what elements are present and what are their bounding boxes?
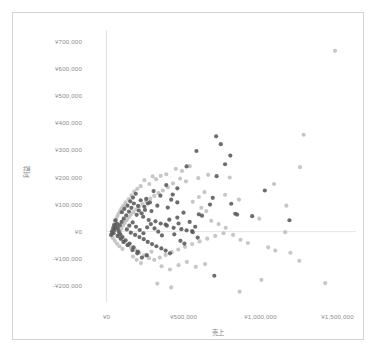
- y-axis-tick-label: -¥200,000: [20, 282, 82, 289]
- y-axis-tick-label: ¥100,000: [20, 201, 82, 208]
- x-axis-title: 売上: [212, 328, 224, 337]
- y-axis-title: 利益: [22, 166, 31, 178]
- y-axis-tick-label: ¥0: [20, 228, 82, 235]
- x-axis-tick-label: ¥500,000: [148, 313, 218, 320]
- x-axis-tick-label: ¥0: [71, 313, 141, 320]
- y-axis-tick-label: -¥100,000: [20, 255, 82, 262]
- y-axis-tick-label: ¥400,000: [20, 119, 82, 126]
- y-axis-tick-label: ¥500,000: [20, 92, 82, 99]
- axis-lines: [106, 30, 356, 302]
- x-axis-tick-label: ¥1,500,000: [303, 313, 373, 320]
- y-axis-tick-label: ¥300,000: [20, 146, 82, 153]
- x-axis-tick-label: ¥1,000,000: [226, 313, 296, 320]
- y-axis-tick-label: ¥700,000: [20, 38, 82, 45]
- y-axis-tick-label: ¥600,000: [20, 65, 82, 72]
